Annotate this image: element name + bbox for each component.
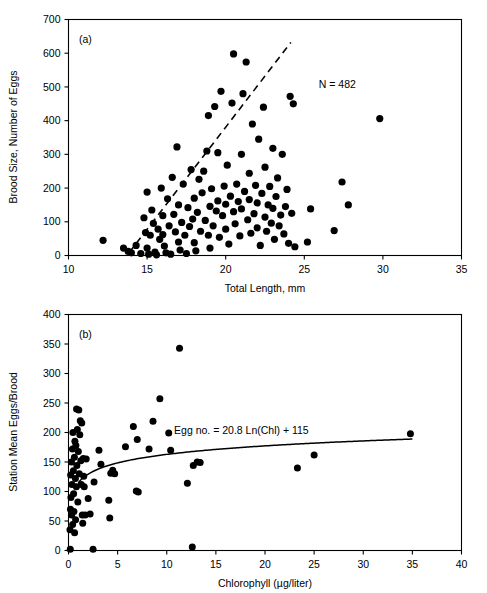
panel-a-n-annotation: N = 482 (319, 78, 356, 90)
data-point (214, 197, 221, 204)
data-point (246, 170, 253, 177)
data-point (203, 147, 210, 154)
y-tick-label: 500 (43, 81, 61, 93)
x-tick-label: 10 (161, 558, 173, 570)
data-point (283, 186, 290, 193)
data-point (269, 145, 276, 152)
data-point (71, 529, 78, 536)
y-tick-label: 300 (43, 367, 61, 379)
x-tick-label: 15 (210, 558, 222, 570)
data-point (287, 93, 294, 100)
x-tick-label: 5 (115, 558, 121, 570)
data-point (304, 238, 311, 245)
data-point (255, 136, 262, 143)
data-point (288, 210, 295, 217)
data-point (155, 226, 162, 233)
data-point (191, 239, 198, 246)
data-point (285, 240, 292, 247)
panel-b-svg: 050100150200250300350400 051015202530354… (0, 300, 487, 593)
figure-container: 0100200300400500600700 101520253035 (a) … (0, 0, 487, 593)
data-point (268, 220, 275, 227)
data-point (261, 213, 268, 220)
data-point (75, 448, 82, 455)
data-point (144, 244, 151, 251)
data-point (294, 464, 301, 471)
data-point (219, 212, 226, 219)
data-point (260, 104, 267, 111)
data-point (95, 447, 102, 454)
data-point (165, 430, 172, 437)
data-point (236, 232, 243, 239)
data-point (144, 189, 151, 196)
data-point (224, 162, 231, 169)
panel-b-data-points (66, 345, 413, 553)
data-point (233, 180, 240, 187)
data-point (177, 247, 184, 254)
data-point (189, 215, 196, 222)
data-point (211, 103, 218, 110)
data-point (376, 115, 383, 122)
data-point (247, 230, 254, 237)
y-tick-label: 600 (43, 47, 61, 59)
y-tick-label: 400 (43, 308, 61, 320)
data-point (106, 515, 113, 522)
data-point (181, 232, 188, 239)
data-point (263, 228, 270, 235)
y-tick-label: 0 (55, 249, 61, 261)
data-point (261, 164, 268, 171)
x-tick-label: 30 (357, 558, 369, 570)
data-point (216, 234, 223, 241)
data-point (70, 490, 77, 497)
data-point (227, 193, 234, 200)
data-point (184, 480, 191, 487)
data-point (266, 183, 273, 190)
data-point (79, 520, 86, 527)
data-point (274, 174, 281, 181)
panel-b-x-axis-title: Chlorophyll (µg/liter) (218, 577, 312, 589)
y-tick-label: 50 (49, 515, 61, 527)
x-tick-label: 25 (298, 263, 310, 275)
x-tick-label: 0 (66, 558, 72, 570)
data-point (166, 222, 173, 229)
data-point (76, 431, 83, 438)
data-point (230, 50, 237, 57)
data-point (225, 240, 232, 247)
data-point (67, 546, 74, 553)
y-tick-label: 250 (43, 397, 61, 409)
data-point (272, 193, 279, 200)
data-point (338, 178, 345, 185)
data-point (164, 195, 171, 202)
x-tick-label: 35 (456, 263, 468, 275)
data-point (111, 470, 118, 477)
data-point (217, 88, 224, 95)
y-tick-label: 100 (43, 485, 61, 497)
panel-b-scatter-station-mean: 050100150200250300350400 051015202530354… (0, 300, 487, 593)
panel-a-y-axis-title: Brood Size, Number of Eggs (7, 70, 19, 203)
data-point (146, 446, 153, 453)
data-point (254, 224, 261, 231)
data-point (74, 499, 81, 506)
data-point (176, 345, 183, 352)
data-point (257, 242, 264, 249)
data-point (213, 207, 220, 214)
panel-b-y-axis-title: Station Mean Eggs/Brood (7, 372, 19, 492)
data-point (70, 508, 77, 515)
x-tick-label: 10 (63, 263, 75, 275)
data-point (221, 182, 228, 189)
data-point (241, 188, 248, 195)
data-point (90, 546, 97, 553)
data-point (122, 443, 129, 450)
data-point (210, 222, 217, 229)
data-point (250, 210, 257, 217)
data-point (91, 479, 98, 486)
data-point (158, 184, 165, 191)
y-tick-label: 150 (43, 456, 61, 468)
y-tick-label: 200 (43, 426, 61, 438)
data-point (72, 516, 79, 523)
data-point (134, 436, 141, 443)
x-tick-label: 25 (308, 558, 320, 570)
y-tick-label: 350 (43, 338, 61, 350)
data-point (276, 222, 283, 229)
y-tick-label: 0 (55, 544, 61, 556)
data-point (200, 168, 207, 175)
